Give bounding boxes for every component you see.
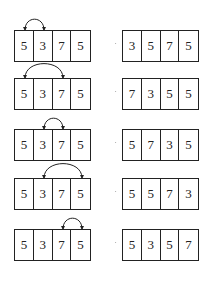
array-before: 5375 (14, 178, 91, 210)
array-cell: 5 (71, 31, 90, 61)
array-cell: 5 (71, 179, 90, 209)
array-cell: 3 (34, 31, 53, 61)
array-cell: 5 (15, 31, 34, 61)
array-cell: 5 (15, 230, 34, 260)
array-cell: 7 (142, 130, 161, 160)
swap-row: 53757355 (0, 78, 211, 112)
swap-row: 53755735 (0, 129, 211, 163)
swap-arc-icon (0, 111, 211, 131)
array-cell: 5 (179, 130, 198, 160)
array-cell: 5 (161, 79, 180, 109)
array-cell: 3 (142, 230, 161, 260)
array-after: 5573 (122, 178, 199, 210)
array-before: 5375 (14, 78, 91, 110)
right-arrow-icon (91, 90, 122, 92)
array-cell: 3 (161, 130, 180, 160)
array-before: 5375 (14, 129, 91, 161)
array-cell: 3 (34, 130, 53, 160)
array-cell: 7 (161, 31, 180, 61)
array-cell: 5 (71, 79, 90, 109)
array-cell: 3 (142, 79, 161, 109)
swap-row: 53755573 (0, 178, 211, 212)
array-after: 7355 (122, 78, 199, 110)
array-after: 3575 (122, 30, 199, 62)
right-arrow-icon (91, 42, 122, 44)
array-cell: 3 (34, 179, 53, 209)
array-cell: 7 (123, 79, 142, 109)
right-arrow-icon (91, 141, 122, 143)
array-cell: 5 (15, 179, 34, 209)
array-cell: 5 (15, 79, 34, 109)
array-cell: 5 (142, 31, 161, 61)
array-cell: 5 (179, 79, 198, 109)
array-cell: 7 (53, 179, 72, 209)
swap-row: 53755357 (0, 229, 211, 263)
array-cell: 5 (123, 179, 142, 209)
array-after: 5735 (122, 129, 199, 161)
array-cell: 5 (71, 230, 90, 260)
array-cell: 5 (71, 130, 90, 160)
swap-arc-icon (0, 12, 211, 32)
array-after: 5357 (122, 229, 199, 261)
array-cell: 3 (34, 79, 53, 109)
swap-row: 53753575 (0, 30, 211, 64)
right-arrow-icon (91, 190, 122, 192)
array-cell: 5 (179, 31, 198, 61)
array-cell: 7 (179, 230, 198, 260)
array-cell: 7 (53, 230, 72, 260)
array-cell: 3 (123, 31, 142, 61)
array-cell: 5 (15, 130, 34, 160)
array-cell: 7 (53, 31, 72, 61)
swap-arc-icon (0, 211, 211, 231)
array-cell: 5 (142, 179, 161, 209)
array-before: 5375 (14, 229, 91, 261)
array-cell: 7 (161, 179, 180, 209)
array-cell: 7 (53, 79, 72, 109)
array-cell: 5 (161, 230, 180, 260)
array-cell: 7 (53, 130, 72, 160)
array-cell: 3 (34, 230, 53, 260)
array-cell: 3 (179, 179, 198, 209)
right-arrow-icon (91, 241, 122, 243)
swap-arc-icon (0, 160, 211, 180)
array-cell: 5 (123, 230, 142, 260)
array-cell: 5 (123, 130, 142, 160)
swap-arc-icon (0, 60, 211, 80)
array-before: 5375 (14, 30, 91, 62)
